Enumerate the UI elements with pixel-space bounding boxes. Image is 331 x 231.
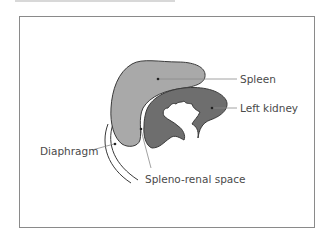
label-spleno-renal-space: Spleno-renal space (145, 173, 245, 185)
label-spleen: Spleen (240, 73, 276, 85)
diaphragm-dot (114, 143, 117, 146)
label-diaphragm: Diaphragm (40, 145, 98, 157)
left-kidney (144, 88, 227, 149)
anatomy-diagram: Spleen Left kidney Diaphragm Spleno-rena… (0, 0, 331, 231)
label-left-kidney: Left kidney (240, 102, 298, 114)
kidney-dot (211, 107, 214, 110)
spleen-dot (157, 78, 160, 81)
splenorenal-dot (140, 128, 143, 131)
